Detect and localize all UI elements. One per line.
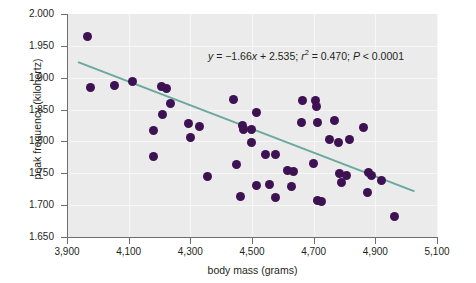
x-axis-tick: [314, 238, 315, 244]
gridline-vertical: [437, 14, 438, 237]
data-point: [345, 135, 354, 144]
gridline-horizontal: [67, 78, 437, 79]
equation-p: P: [353, 50, 360, 62]
data-point: [359, 123, 368, 132]
x-axis-tick-label: 5,100: [414, 247, 460, 257]
data-point: [149, 126, 158, 135]
data-point: [377, 176, 386, 185]
data-point: [309, 159, 318, 168]
equation-tail: + 2.535;: [257, 50, 301, 62]
y-axis-tick-label: 2.000: [29, 9, 54, 19]
data-point: [184, 119, 193, 128]
data-point: [363, 188, 372, 197]
gridline-horizontal: [67, 173, 437, 174]
y-axis-tick-label: 1.650: [29, 232, 54, 242]
y-axis-tick: [61, 110, 67, 111]
equation-body: = −1.66: [213, 50, 252, 62]
y-axis-tick: [61, 78, 67, 79]
data-point: [128, 77, 137, 86]
data-point: [297, 118, 306, 127]
y-axis-tick: [61, 14, 67, 15]
y-axis-label: peak frequency (kilohertz): [31, 19, 43, 219]
data-point: [337, 178, 346, 187]
data-point: [247, 125, 256, 134]
x-axis-tick: [252, 238, 253, 244]
x-axis-tick: [129, 238, 130, 244]
data-point: [252, 181, 261, 190]
data-point: [334, 138, 343, 147]
x-axis-tick-label: 4,300: [167, 247, 213, 257]
equation-p-value: < 0.0001: [360, 50, 404, 62]
data-point: [265, 180, 274, 189]
x-axis-tick-label: 4,700: [291, 247, 337, 257]
equation-r-value: = 0.470;: [309, 50, 353, 62]
gridline-horizontal: [67, 205, 437, 206]
x-axis-tick: [190, 238, 191, 244]
data-point: [86, 83, 95, 92]
data-point: [229, 95, 238, 104]
data-point: [367, 171, 376, 180]
x-axis-tick: [375, 238, 376, 244]
data-point: [162, 84, 171, 93]
y-axis-tick: [61, 173, 67, 174]
scatter-plot-figure: 2.0001.9501.9001.8501.8001.7501.7001.650…: [0, 0, 476, 283]
data-point: [203, 172, 212, 181]
x-axis-tick-label: 4,100: [106, 247, 152, 257]
x-axis-label: body mass (grams): [67, 264, 438, 276]
data-point: [149, 152, 158, 161]
data-point: [330, 116, 339, 125]
data-point: [312, 102, 321, 111]
x-axis-tick: [437, 238, 438, 244]
data-point: [247, 138, 256, 147]
gridline-horizontal: [67, 46, 437, 47]
y-axis-tick: [61, 205, 67, 206]
x-axis-tick-label: 3,900: [44, 247, 90, 257]
x-axis-tick-label: 4,500: [229, 247, 275, 257]
data-point: [287, 182, 296, 191]
data-point: [325, 135, 334, 144]
gridline-vertical: [129, 14, 130, 237]
data-point: [390, 212, 399, 221]
x-axis-tick: [67, 238, 68, 244]
data-point: [317, 197, 326, 206]
y-axis-line: [67, 14, 68, 238]
x-axis-tick-label: 4,900: [352, 247, 398, 257]
data-point: [186, 133, 195, 142]
y-axis-tick: [61, 46, 67, 47]
regression-annotation: y = −1.66x + 2.535; r2 = 0.470; P < 0.00…: [208, 48, 404, 62]
y-axis-tick: [61, 141, 67, 142]
